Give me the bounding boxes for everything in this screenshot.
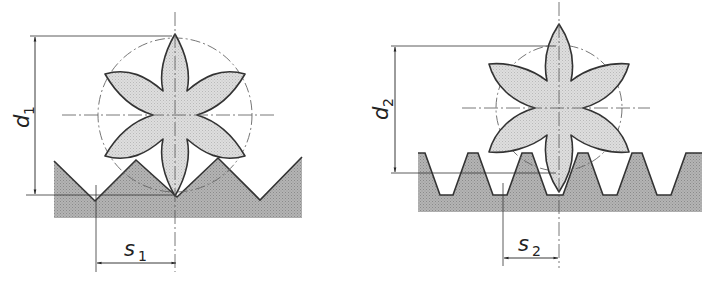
- d2-subscript: 2: [380, 98, 396, 107]
- right-figure: d 2 s 2: [369, 2, 702, 268]
- gear-rack-diagram: d 1 s 1 d 2: [0, 0, 702, 284]
- d2-label: d 2: [369, 98, 396, 120]
- s2-label: s 2: [518, 232, 541, 259]
- s2-subscript: 2: [532, 243, 541, 259]
- d2-symbol: d: [369, 106, 393, 120]
- s1-subscript: 1: [138, 248, 147, 264]
- s2-symbol: s: [518, 232, 529, 256]
- s1-symbol: s: [124, 237, 135, 261]
- d1-symbol: d: [10, 114, 34, 128]
- d1-label: d 1: [10, 106, 37, 128]
- s1-label: s 1: [124, 237, 147, 264]
- left-figure: d 1 s 1: [10, 12, 302, 272]
- d1-subscript: 1: [21, 106, 37, 115]
